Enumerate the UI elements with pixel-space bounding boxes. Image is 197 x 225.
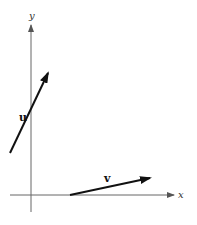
- vector-diagram: y x u v: [0, 0, 197, 225]
- vector-u-label: u: [19, 111, 27, 124]
- y-axis-label: y: [28, 10, 35, 21]
- vector-u: [10, 73, 48, 153]
- vector-v-label: v: [103, 172, 111, 185]
- x-axis-label: x: [178, 189, 184, 200]
